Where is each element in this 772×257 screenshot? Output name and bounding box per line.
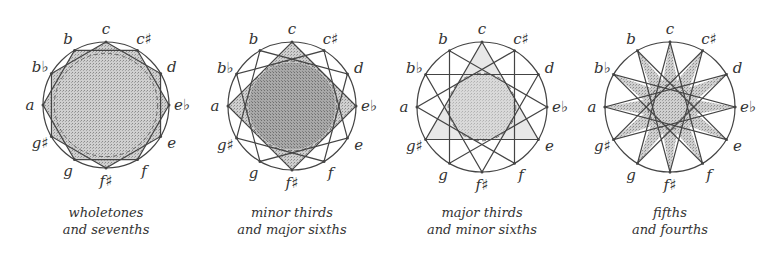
circle-panel-wholetones: cc♯de♭eff♯gg♯ab♭b	[26, 20, 190, 190]
note-label-d: d	[545, 59, 555, 77]
note-label-c: c	[102, 20, 111, 38]
note-label-a: a	[26, 96, 35, 114]
note-label-c: c	[666, 20, 675, 38]
note-label-d: d	[733, 59, 743, 77]
note-label-a: a	[400, 98, 409, 116]
note-label-a: a	[588, 98, 597, 116]
caption-line-2: and major sixths	[202, 221, 382, 238]
caption-line-1: wholetones	[16, 204, 196, 221]
note-label-g: g	[626, 166, 636, 184]
note-label-f#: f♯	[663, 176, 677, 194]
note-label-d: d	[354, 59, 364, 77]
note-label-c#: c♯	[513, 30, 529, 48]
circle-panel-minor-thirds: cc♯de♭eff♯gg♯ab♭b	[211, 20, 377, 192]
caption-line-2: and sevenths	[16, 221, 196, 238]
caption-line-2: and fourths	[580, 221, 760, 238]
note-label-c#: c♯	[136, 30, 152, 48]
note-label-eb: e♭	[552, 98, 568, 116]
note-label-d: d	[167, 58, 177, 76]
note-label-f: f	[140, 162, 149, 180]
circle-panel-fifths: cc♯de♭eff♯gg♯ab♭b	[588, 20, 756, 194]
caption-line-1: fifths	[580, 204, 760, 221]
note-label-e: e	[733, 137, 742, 155]
caption-major-thirds: major thirds and minor sixths	[392, 204, 572, 238]
note-label-g#: g♯	[217, 136, 234, 154]
note-label-e: e	[545, 137, 554, 155]
note-label-e: e	[354, 136, 363, 154]
note-label-e: e	[167, 134, 176, 152]
note-label-eb: e♭	[361, 97, 377, 115]
note-label-c: c	[288, 20, 297, 38]
note-label-c#: c♯	[701, 30, 717, 48]
caption-line-1: major thirds	[392, 204, 572, 221]
note-label-g: g	[438, 166, 448, 184]
note-label-f: f	[705, 166, 714, 184]
caption-line-1: minor thirds	[202, 204, 382, 221]
circle-panel-major-thirds: cc♯de♭eff♯gg♯ab♭b	[400, 20, 568, 194]
note-label-bb: b♭	[594, 59, 611, 77]
note-label-c#: c♯	[323, 30, 339, 48]
note-label-bb: b♭	[32, 58, 49, 76]
note-label-g#: g♯	[32, 134, 49, 152]
note-label-g#: g♯	[594, 137, 611, 155]
caption-line-2: and minor sixths	[392, 221, 572, 238]
note-label-f: f	[517, 166, 526, 184]
note-label-g: g	[63, 162, 73, 180]
note-label-f#: f♯	[99, 172, 113, 190]
note-label-a: a	[211, 97, 220, 115]
note-label-b: b	[626, 30, 636, 48]
caption-fifths: fifths and fourths	[580, 204, 760, 238]
caption-wholetones: wholetones and sevenths	[16, 204, 196, 238]
note-label-eb: e♭	[740, 98, 756, 116]
note-label-b: b	[63, 30, 73, 48]
note-label-bb: b♭	[217, 59, 234, 77]
caption-minor-thirds: minor thirds and major sixths	[202, 204, 382, 238]
note-label-b: b	[438, 30, 448, 48]
note-label-g: g	[249, 164, 259, 182]
note-label-c: c	[478, 20, 487, 38]
note-label-f#: f♯	[475, 176, 489, 194]
note-label-bb: b♭	[406, 59, 423, 77]
note-label-f#: f♯	[285, 174, 299, 192]
note-label-f: f	[327, 164, 336, 182]
note-label-b: b	[249, 30, 259, 48]
note-label-eb: e♭	[174, 96, 190, 114]
note-label-g#: g♯	[406, 137, 423, 155]
